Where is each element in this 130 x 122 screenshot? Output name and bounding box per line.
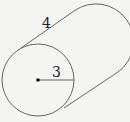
cylinder-diagram: 4 3	[0, 0, 130, 122]
back-base-arc	[74, 4, 130, 72]
radius-label: 3	[52, 64, 61, 80]
center-point	[36, 78, 40, 82]
height-label: 4	[42, 15, 51, 31]
